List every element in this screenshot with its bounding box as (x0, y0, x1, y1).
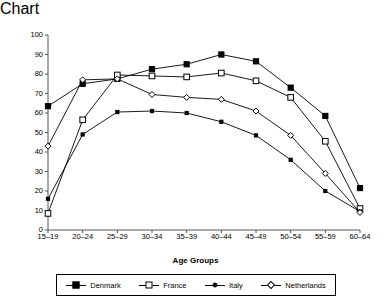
chart-legend: DenmarkFranceItalyNetherlands (56, 274, 336, 296)
legend-marker-filled-square-icon (66, 281, 86, 290)
legend-marker-open-square-icon (139, 281, 159, 290)
legend-item-netherlands[interactable]: Netherlands (261, 281, 325, 290)
y-tick-label: 50 (17, 129, 43, 137)
y-tick-label: 10 (17, 207, 43, 215)
legend-item-italy[interactable]: Italy (205, 281, 243, 290)
chart-axes (48, 35, 360, 230)
x-axis-title: Age Groups (0, 256, 391, 265)
plot-svg (48, 35, 360, 230)
series-denmark (45, 52, 362, 191)
y-tick-label: 70 (17, 90, 43, 98)
y-tick-label: 100 (17, 31, 43, 39)
y-tick-label: 20 (17, 187, 43, 195)
legend-item-denmark[interactable]: Denmark (66, 281, 120, 290)
y-tick-label: 90 (17, 51, 43, 59)
legend-label: Denmark (89, 281, 120, 290)
legend-item-france[interactable]: France (139, 281, 186, 290)
legend-marker-small-filled-dot-icon (205, 281, 225, 290)
y-axis-title: Activity rate (0, 0, 8, 90)
plot-area (48, 35, 360, 230)
legend-label: Italy (228, 281, 243, 290)
legend-label: France (162, 281, 186, 290)
y-tick-label: 30 (17, 168, 43, 176)
activity-rate-line-chart: Activity rate 0102030405060708090100 15–… (0, 18, 391, 300)
x-tick-label: 60–64 (340, 233, 380, 241)
legend-label: Netherlands (284, 281, 325, 290)
y-tick-label: 40 (17, 148, 43, 156)
series-france (45, 70, 363, 216)
x-axis-title-label: Age Groups (173, 256, 219, 265)
y-tick-label: 60 (17, 109, 43, 117)
series-netherlands (45, 76, 363, 216)
y-tick-label: 80 (17, 70, 43, 78)
legend-marker-open-diamond-icon (261, 281, 281, 290)
